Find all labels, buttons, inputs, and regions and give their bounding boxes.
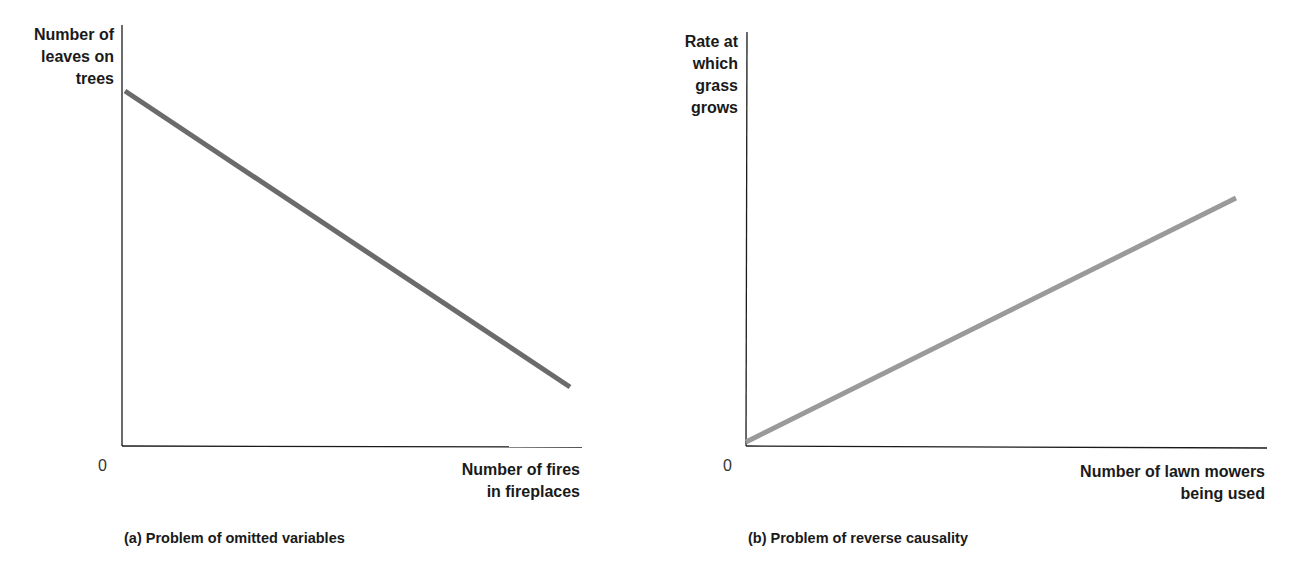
panel-b-x-label: Number of lawn mowers being used xyxy=(995,461,1265,505)
panel-a-x-axis xyxy=(122,446,582,447)
y-label-line: Number of xyxy=(0,24,114,46)
y-label-line: grass xyxy=(640,75,738,97)
x-label-line: Number of fires xyxy=(380,459,580,481)
y-label-line: leaves on xyxy=(0,46,114,68)
panel-b-y-axis xyxy=(746,32,747,446)
x-label-line: Number of lawn mowers xyxy=(995,461,1265,483)
y-label-line: Rate at xyxy=(640,31,738,53)
panel-a-y-label: Number of leaves on trees xyxy=(0,24,114,90)
y-label-line: grows xyxy=(640,97,738,119)
panel-b-x-axis xyxy=(746,446,1267,448)
y-label-line: trees xyxy=(0,68,114,90)
panel-a-origin-label: 0 xyxy=(98,457,107,475)
panel-a-data-line xyxy=(125,91,570,387)
panel-b-origin-label: 0 xyxy=(723,457,732,475)
x-label-line: being used xyxy=(995,483,1265,505)
panel-b-y-label: Rate at which grass grows xyxy=(640,31,738,119)
panel-a-x-label: Number of fires in fireplaces xyxy=(380,459,580,503)
y-label-line: which xyxy=(640,53,738,75)
panel-b-caption: (b) Problem of reverse causality xyxy=(748,530,968,546)
x-label-line: in fireplaces xyxy=(380,481,580,503)
panel-b-data-line xyxy=(746,198,1236,442)
panel-a-caption: (a) Problem of omitted variables xyxy=(124,530,345,546)
